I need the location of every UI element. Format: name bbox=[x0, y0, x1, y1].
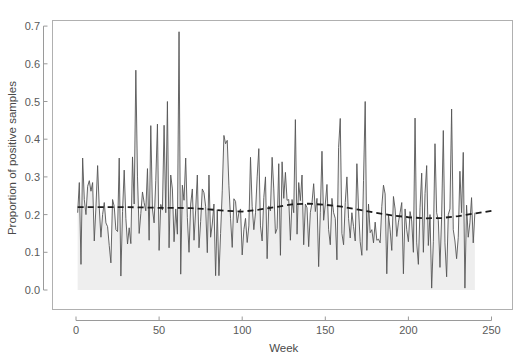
y-axis-tick-label: 0.2 bbox=[25, 209, 40, 221]
x-axis-title: Week bbox=[269, 342, 298, 354]
y-axis-tick-label: 0.0 bbox=[25, 284, 40, 296]
proportion-of-positive-samples-chart: 0.00.10.20.30.40.50.60.7050100150200250W… bbox=[0, 0, 527, 358]
x-axis-tick-label: 0 bbox=[73, 324, 79, 336]
chart-figure: 0.00.10.20.30.40.50.60.7050100150200250W… bbox=[0, 0, 527, 358]
y-axis-tick-label: 0.5 bbox=[25, 96, 40, 108]
y-axis-tick-label: 0.7 bbox=[25, 20, 40, 32]
x-axis-tick-label: 50 bbox=[153, 324, 165, 336]
x-axis-tick-label: 250 bbox=[482, 324, 500, 336]
y-axis-tick-label: 0.1 bbox=[25, 246, 40, 258]
x-axis-tick-label: 200 bbox=[399, 324, 417, 336]
y-axis-title: Proportion of positive samples bbox=[6, 81, 18, 235]
y-axis-tick-label: 0.6 bbox=[25, 58, 40, 70]
y-axis-tick-label: 0.4 bbox=[25, 133, 40, 145]
x-axis-tick-label: 100 bbox=[233, 324, 251, 336]
y-axis-tick-label: 0.3 bbox=[25, 171, 40, 183]
x-axis-tick-label: 150 bbox=[316, 324, 334, 336]
